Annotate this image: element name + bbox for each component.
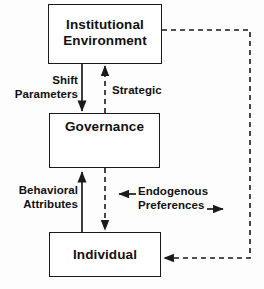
node-governance-label: Governance [65,119,144,135]
node-individual-label: Individual [73,247,137,263]
edge-label-endogenous-preferences: Endogenous Preferences [138,185,208,213]
diagram-canvas: Institutional Environment Governance Ind… [0,0,264,289]
node-institutional-environment-label: Institutional Environment [63,17,147,49]
edge-institutional-to-individual-feedback [162,30,250,258]
node-individual[interactable]: Individual [49,232,161,277]
node-institutional-environment[interactable]: Institutional Environment [48,4,162,64]
edge-label-behavioral-attributes: Behavioral Attributes [4,184,78,212]
edge-label-shift-parameters: Shift Parameters [4,74,78,102]
edge-label-strategic: Strategic [112,84,162,98]
node-governance[interactable]: Governance [49,113,160,168]
